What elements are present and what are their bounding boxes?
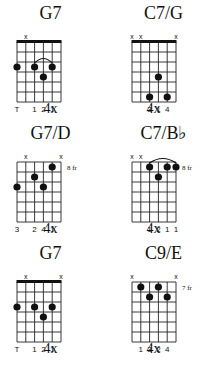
chord-diagram-5: G7 xxT121 4x xyxy=(0,240,101,360)
finger-dot-icon xyxy=(155,73,162,80)
repeat-count: 4x xyxy=(103,222,202,236)
muted-string-icon: x xyxy=(139,33,143,40)
finger-dot-icon xyxy=(31,303,38,310)
fret-position-label: 7 fr xyxy=(182,284,193,292)
finger-dot-icon xyxy=(31,173,38,180)
muted-string-icon: x xyxy=(24,273,28,280)
nut-bar xyxy=(17,40,62,43)
chord-name: G7/D xyxy=(0,124,101,142)
repeat-count: 4x xyxy=(103,342,202,356)
chord-diagram-6: C9/E xx7 fr1324 4x xyxy=(101,240,202,360)
chord-name: G7 xyxy=(0,4,101,22)
finger-dot-icon xyxy=(49,163,56,170)
finger-dot-icon xyxy=(155,283,162,290)
muted-string-icon: x xyxy=(130,153,134,160)
finger-dot-icon xyxy=(40,313,47,320)
chord-diagram-3: G7/D xx8 fr3241 4x xyxy=(0,120,101,240)
finger-dot-icon xyxy=(164,293,171,300)
muted-string-icon: x xyxy=(130,273,134,280)
chord-name: C7/G xyxy=(113,4,202,22)
muted-string-icon: x xyxy=(174,273,178,280)
repeat-count: 4x xyxy=(103,102,202,116)
chord-diagram-4: C7/B♭ xx8 fr1211 4x xyxy=(101,120,202,240)
finger-dot-icon xyxy=(146,293,153,300)
muted-string-icon: x xyxy=(174,33,178,40)
chord-name: G7 xyxy=(0,244,101,262)
repeat-count: 4x xyxy=(0,222,101,236)
muted-string-icon: x xyxy=(130,33,134,40)
finger-dot-icon xyxy=(137,283,144,290)
fret-position-label: 8 fr xyxy=(182,164,193,172)
finger-dot-icon xyxy=(164,93,171,100)
muted-string-icon: x xyxy=(59,273,63,280)
finger-dot-icon xyxy=(40,73,47,80)
chord-diagram-1: G7 xT121 4x xyxy=(0,0,101,120)
nut-bar xyxy=(17,280,62,283)
muted-string-icon: x xyxy=(24,153,28,160)
muted-string-icon: x xyxy=(24,33,28,40)
fret-position-label: 8 fr xyxy=(67,164,78,172)
finger-dot-icon xyxy=(40,183,47,190)
nut-bar xyxy=(132,40,177,43)
finger-dot-icon xyxy=(146,163,153,170)
repeat-count: 4x xyxy=(0,102,101,116)
finger-dot-icon xyxy=(13,63,20,70)
finger-dot-icon xyxy=(31,63,38,70)
muted-string-icon: x xyxy=(139,153,143,160)
finger-dot-icon xyxy=(172,163,179,170)
finger-dot-icon xyxy=(49,63,56,70)
chord-diagram-2: C7/G xxx314 4x xyxy=(101,0,202,120)
finger-dot-icon xyxy=(13,183,20,190)
finger-dot-icon xyxy=(146,93,153,100)
muted-string-icon: x xyxy=(59,153,63,160)
finger-dot-icon xyxy=(49,303,56,310)
finger-dot-icon xyxy=(155,173,162,180)
chord-name: C9/E xyxy=(113,244,202,262)
chord-name: C7/B♭ xyxy=(113,124,202,142)
repeat-count: 4x xyxy=(0,342,101,356)
finger-dot-icon xyxy=(164,163,171,170)
finger-dot-icon xyxy=(13,303,20,310)
